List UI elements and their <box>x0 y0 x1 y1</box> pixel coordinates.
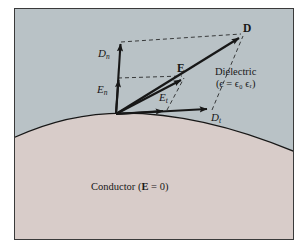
vector-label-Dn-base: D <box>98 47 106 59</box>
conductor-label-suffix: = 0) <box>148 181 168 192</box>
vector-label-Dn-subscript: n <box>106 52 110 61</box>
conductor-region-label: Conductor (E = 0) <box>91 182 168 193</box>
vector-label-Dt-subscript: t <box>219 116 221 125</box>
vector-label-Et-subscript: t <box>166 96 168 105</box>
vector-label-Dt-base: D <box>211 111 219 123</box>
figure-diagram <box>15 9 293 239</box>
dielectric-region-label: Dielectric (ϵ = ϵ₀ ϵᵣ) <box>215 67 256 89</box>
vector-label-Dt: Dt <box>211 112 221 125</box>
figure-frame: D E Dn En Dt Et Dielectric (ϵ = ϵ₀ ϵᵣ) C… <box>14 8 294 240</box>
conductor-label-prefix: Conductor ( <box>91 181 141 192</box>
vector-label-En: En <box>97 84 107 97</box>
vector-label-D: D <box>243 23 251 35</box>
vector-label-E: E <box>177 63 185 75</box>
vector-label-En-base: E <box>97 83 104 95</box>
dielectric-label-line2: (ϵ = ϵ₀ ϵᵣ) <box>215 79 256 90</box>
vector-label-Et-base: E <box>159 91 166 103</box>
vector-label-En-subscript: n <box>104 88 108 97</box>
dielectric-label-line1: Dielectric <box>215 66 256 77</box>
vector-label-Et: Et <box>159 92 168 105</box>
vector-label-Dn: Dn <box>98 48 110 61</box>
